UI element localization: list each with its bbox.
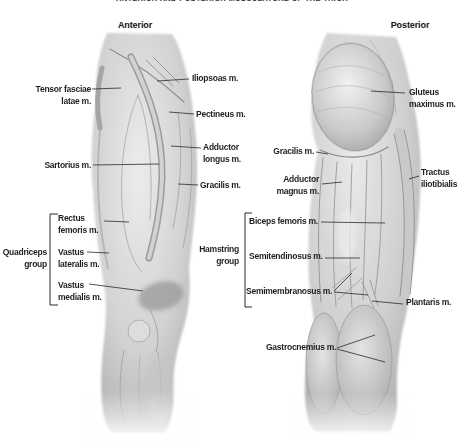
label-semimembranosus: Semimembranosus m. <box>246 285 332 297</box>
label-biceps-femoris: Biceps femoris m. <box>249 215 318 227</box>
label-vastus-medialis: Vastus medialis m. <box>58 279 102 303</box>
label-adductor-magnus: Adductor magnus m. <box>276 173 319 197</box>
anterior-heading: Anterior <box>95 20 175 30</box>
quadriceps-group-bracket <box>50 214 58 305</box>
label-gracilis-anterior: Gracilis m. <box>200 179 241 191</box>
figure-title: ANTERIOR AND POSTERIOR MUSCULATURE OF TH… <box>0 0 464 3</box>
label-pectineus: Pectineus m. <box>196 108 245 120</box>
label-semitendinosus: Semitendinosus m. <box>249 250 323 262</box>
label-adductor-longus: Adductor longus m. <box>203 141 241 165</box>
label-iliopsoas: Iliopsoas m. <box>192 72 238 84</box>
label-plantaris: Plantaris m. <box>406 296 451 308</box>
label-quadriceps-group: Quadriceps group <box>3 246 47 270</box>
figure-plate: ANTERIOR AND POSTERIOR MUSCULATURE OF TH… <box>0 0 464 442</box>
label-hamstring-group: Hamstring group <box>199 243 239 267</box>
anterior-leg-illustration <box>80 33 200 442</box>
label-sartorius: Sartorius m. <box>44 159 91 171</box>
label-tractus-iliotibialis: Tractus iliotibialis <box>421 166 457 190</box>
label-rectus-femoris: Rectus femoris m. <box>58 212 99 236</box>
label-tensor-fasciae-latae: Tensor fasciae latae m. <box>36 83 91 107</box>
label-gluteus-maximus: Gluteus maximus m. <box>409 86 456 110</box>
label-gracilis-posterior: Gracilis m. <box>273 145 314 157</box>
posterior-leg-illustration <box>293 33 421 442</box>
label-gastrocnemius: Gastrocnemius m. <box>266 341 336 353</box>
posterior-heading: Posterior <box>370 20 450 30</box>
label-vastus-lateralis: Vastus lateralis m. <box>58 246 99 270</box>
